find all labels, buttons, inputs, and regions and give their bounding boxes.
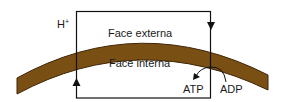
atp-label: ATP	[183, 84, 204, 95]
down-arrow-icon	[207, 22, 215, 30]
membrane-diagram	[0, 0, 286, 102]
outer-face-label: Face externa	[108, 28, 172, 39]
proton-label: H+	[57, 19, 69, 30]
arrowhead-icon	[193, 73, 200, 80]
up-arrow-icon	[73, 78, 81, 86]
inner-face-label: Face interna	[109, 58, 170, 69]
adp-label: ADP	[220, 84, 243, 95]
